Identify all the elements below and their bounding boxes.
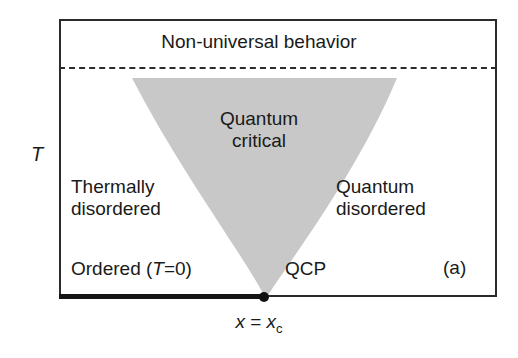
qcp-marker-dot (259, 292, 269, 302)
label-thermally-disordered-line2: disordered (71, 198, 161, 220)
x-axis-label-critical-variable: x (267, 311, 277, 332)
label-quantum-critical-line1: Quantum (220, 108, 298, 129)
y-axis-label: T (31, 143, 43, 167)
panel-label: (a) (443, 257, 466, 279)
label-ordered-suffix: =0) (164, 258, 192, 279)
label-quantum-disordered-line1: Quantum (336, 176, 414, 197)
label-ordered-temperature-symbol: T (152, 258, 164, 279)
ordered-phase-boundary-line (59, 294, 265, 299)
non-universal-crossover-line (59, 67, 497, 69)
x-axis-label-subscript: c (276, 321, 283, 336)
x-axis-label-variable: x (235, 311, 245, 332)
label-quantum-critical-line2: critical (0, 130, 518, 152)
x-axis-label-equals: = (245, 311, 267, 332)
phase-diagram-figure: Non-universal behavior Quantum critical … (0, 0, 518, 358)
label-ordered-phase: Ordered (T=0) (71, 258, 192, 280)
x-axis-label: x = xc (0, 311, 518, 336)
label-quantum-disordered-line2: disordered (336, 198, 426, 220)
label-qcp: QCP (285, 258, 326, 280)
label-thermally-disordered: Thermally disordered (71, 176, 161, 221)
quantum-critical-region (59, 19, 497, 297)
label-ordered-prefix: Ordered ( (71, 258, 152, 279)
label-thermally-disordered-line1: Thermally (71, 176, 154, 197)
label-quantum-disordered: Quantum disordered (336, 176, 426, 221)
label-quantum-critical: Quantum critical (0, 108, 518, 153)
label-non-universal-behavior: Non-universal behavior (0, 31, 518, 53)
